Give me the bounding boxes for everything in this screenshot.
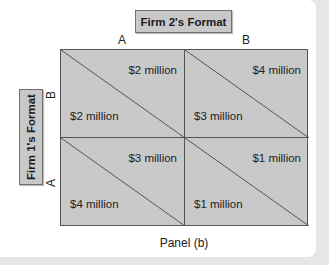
figure-card: Firm 2's Format A B Firm 1's Format B A … bbox=[0, 0, 316, 257]
figure-caption: Panel (b) bbox=[60, 236, 308, 250]
column-strategy-label-a: A bbox=[112, 33, 132, 47]
row-player-label-text: Firm 1's Format bbox=[25, 94, 37, 180]
row-strategy-label-b: B bbox=[44, 88, 58, 102]
column-strategy-label-b: B bbox=[236, 33, 256, 47]
column-player-label-text: Firm 2's Format bbox=[141, 16, 227, 28]
payoff-cell-a-b: $1 million $1 million bbox=[185, 138, 309, 226]
row-strategy-label-a: A bbox=[44, 176, 58, 190]
firm1-payoff: $1 million bbox=[194, 198, 243, 210]
firm1-payoff: $3 million bbox=[194, 110, 243, 122]
payoff-matrix: $2 million $2 million $4 million $3 mill… bbox=[60, 49, 308, 226]
row-player-label: Firm 1's Format bbox=[19, 89, 43, 185]
column-player-label: Firm 2's Format bbox=[135, 10, 232, 33]
payoff-cell-a-a: $3 million $4 million bbox=[61, 138, 185, 226]
firm2-payoff: $1 million bbox=[252, 152, 301, 164]
firm2-payoff: $3 million bbox=[128, 152, 177, 164]
firm1-payoff: $4 million bbox=[70, 198, 119, 210]
firm2-payoff: $2 million bbox=[128, 64, 177, 76]
payoff-cell-b-b: $4 million $3 million bbox=[185, 50, 309, 138]
firm1-payoff: $2 million bbox=[70, 110, 119, 122]
grid-divider-horizontal bbox=[61, 137, 307, 138]
row-strategy-label-a-text: A bbox=[44, 179, 58, 187]
firm2-payoff: $4 million bbox=[252, 64, 301, 76]
row-strategy-label-b-text: B bbox=[44, 91, 58, 99]
payoff-cell-b-a: $2 million $2 million bbox=[61, 50, 185, 138]
